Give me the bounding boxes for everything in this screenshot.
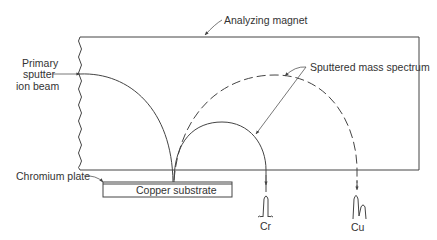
- chromium-plate-callout: Chromium plate: [16, 170, 103, 182]
- cr-label: Cr: [260, 220, 272, 232]
- analyzing-magnet-callout: Analyzing magnet: [205, 14, 308, 35]
- primary-beam-arc: [80, 74, 173, 182]
- copper-substrate-label: Copper substrate: [136, 184, 217, 196]
- primary-label-line2: sputter: [23, 68, 56, 80]
- sims-diagram: Analyzing magnet Primary sputter ion bea…: [0, 0, 437, 240]
- copper-substrate: Copper substrate: [103, 182, 232, 197]
- cu-peak: Cu: [351, 196, 366, 234]
- wavy-left-edge: [79, 37, 82, 170]
- cu-label: Cu: [351, 221, 365, 233]
- mass-spectrum-label: Sputtered mass spectrum: [310, 61, 430, 73]
- analyzing-magnet-label: Analyzing magnet: [224, 14, 308, 26]
- chromium-plate-label: Chromium plate: [16, 170, 90, 182]
- primary-beam-callout: Primary sputter ion beam: [16, 57, 80, 92]
- mass-spectrum-callout: Sputtered mass spectrum: [256, 61, 430, 134]
- magnet-region: [79, 37, 420, 170]
- cr-peak: Cr: [258, 196, 273, 232]
- primary-label-line3: ion beam: [16, 80, 59, 92]
